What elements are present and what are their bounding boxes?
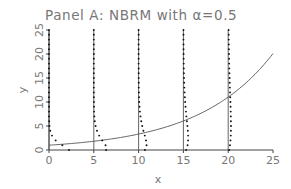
density-dot [48,96,50,98]
density-dot [93,29,95,31]
density-dot [183,29,185,31]
density-dot [93,106,95,108]
density-dot [183,53,185,55]
density-dot [93,77,95,79]
density-dot [229,91,231,93]
density-dot [48,48,50,50]
density-dot [48,63,50,65]
density-dot [187,144,189,146]
density-dot [145,139,147,141]
density-dot [230,111,232,113]
density-dot [48,82,50,84]
density-dot [228,67,230,69]
density-dot [228,63,230,65]
density-dot [138,43,140,45]
density-dot [230,139,232,141]
chart: Panel A: NBRM with α=0.5 051015202505101… [0,0,291,189]
density-dot [229,144,231,146]
density-dot [230,125,232,127]
density-dot [48,53,50,55]
density-dot [185,115,187,117]
density-dot [228,53,230,55]
density-dot [95,125,97,127]
density-dot [93,53,95,55]
chart-title: Panel A: NBRM with α=0.5 [45,7,237,23]
density-dot [93,67,95,69]
density-dot [138,87,140,89]
density-dot [140,115,142,117]
density-dot [101,139,103,141]
density-dot [48,91,50,93]
density-dot [139,106,141,108]
x-tick-label: 15 [176,154,190,167]
x-tick-label: 0 [46,154,53,167]
density-dot [138,67,140,69]
density-dot [142,130,144,132]
y-axis-label: y [16,86,29,93]
density-dot [140,120,142,122]
density-dot [48,34,50,36]
density-dot [93,87,95,89]
density-dot [230,130,232,132]
y-tick-label: 0 [33,147,46,154]
density-dot [93,91,95,93]
density-dot [93,111,95,113]
x-tick-label: 20 [221,154,235,167]
density-dot [183,34,185,36]
density-dot [93,101,95,103]
density-dot [228,43,230,45]
density-dot [55,139,57,141]
density-dot [51,135,53,137]
density-dot [229,96,231,98]
density-dot [138,77,140,79]
density-dot [138,58,140,60]
density-dot [138,96,140,98]
density-dot [48,77,50,79]
density-dot [230,120,232,122]
density-dot [183,43,185,45]
y-tick-label: 20 [33,47,46,61]
density-dot [183,48,185,50]
density-dot [230,115,232,117]
density-dot [68,149,70,151]
density-dot [93,63,95,65]
density-dot [138,34,140,36]
density-dot [48,39,50,41]
density-dot [186,125,188,127]
y-tick-label: 25 [33,23,46,37]
density-dot [93,96,95,98]
density-dot [187,139,189,141]
density-dot [94,120,96,122]
density-dot [184,91,186,93]
x-axis-label: x [155,173,162,186]
density-dot [48,120,50,122]
density-dot [93,43,95,45]
density-dot [139,111,141,113]
density-dot [138,72,140,74]
density-dot [48,72,50,74]
density-dot [61,144,63,146]
density-dot [141,125,143,127]
density-dot [187,130,189,132]
density-dot [48,87,50,89]
plot-area [48,29,273,151]
density-dot [48,111,50,113]
density-dot [138,101,140,103]
density-dot [48,29,50,31]
density-dot [93,48,95,50]
density-dot [144,149,146,151]
density-dot [183,82,185,84]
mean-curve [49,54,273,146]
density-dot [138,53,140,55]
density-dot [229,77,231,79]
density-dot [187,135,189,137]
density-dot [184,101,186,103]
density-dot [48,43,50,45]
density-dot [98,135,100,137]
density-dot [185,149,187,151]
y-tick-label: 15 [33,71,46,85]
density-dot [228,29,230,31]
density-dot [138,39,140,41]
density-dot [138,48,140,50]
density-dot [49,130,51,132]
